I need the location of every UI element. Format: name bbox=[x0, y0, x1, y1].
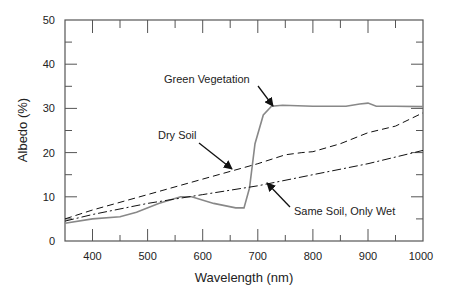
x-tick-label: 500 bbox=[138, 250, 156, 262]
y-axis-title: Albedo (%) bbox=[15, 98, 30, 162]
y-tick-label: 10 bbox=[43, 191, 55, 203]
x-tick-label: 800 bbox=[304, 250, 322, 262]
arrow-dry-soil bbox=[199, 143, 232, 169]
annotation-same-soil-wet: Same Soil, Only Wet bbox=[294, 205, 395, 217]
y-tick-label: 40 bbox=[43, 58, 55, 70]
y-tick-label: 30 bbox=[43, 102, 55, 114]
albedo-chart: 400 500 600 700 800 900 1000 0 10 20 30 … bbox=[0, 0, 449, 295]
y-tick-label: 0 bbox=[49, 235, 55, 247]
x-tick-label: 900 bbox=[359, 250, 377, 262]
y-tick-label: 20 bbox=[43, 147, 55, 159]
arrow-green-vegetation bbox=[258, 86, 273, 106]
x-tick-label: 1000 bbox=[409, 250, 433, 262]
y-tick-label: 50 bbox=[43, 14, 55, 26]
annotation-green-vegetation: Green Vegetation bbox=[164, 73, 250, 85]
x-axis-title: Wavelength (nm) bbox=[195, 270, 294, 285]
annotation-dry-soil: Dry Soil bbox=[158, 129, 197, 141]
series-dry-soil bbox=[65, 113, 423, 219]
x-tick-label: 400 bbox=[83, 250, 101, 262]
x-tick-label: 700 bbox=[249, 250, 267, 262]
y-ticks bbox=[65, 42, 423, 219]
arrow-same-soil-wet bbox=[267, 183, 290, 207]
x-tick-label: 600 bbox=[194, 250, 212, 262]
